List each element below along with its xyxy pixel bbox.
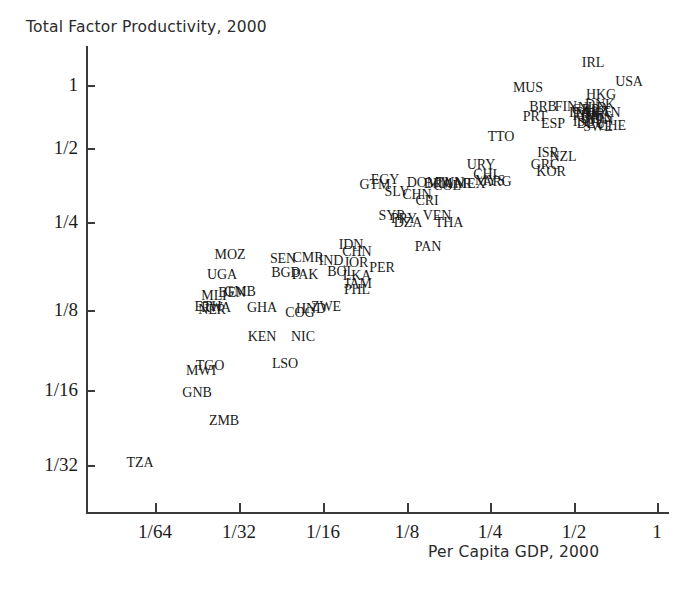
x-axis-title: Per Capita GDP, 2000 [428,543,599,561]
data-point-label: GNB [182,385,211,401]
x-tick-label: 1 [652,521,662,543]
y-tick-label: 1/4 [10,211,78,233]
x-axis-line [86,512,669,514]
data-point-label: TGO [196,358,224,374]
data-point-label: ISL [573,114,594,130]
data-point-label: BRA [424,176,453,192]
data-point-label: PHL [344,282,370,298]
x-tick-label: 1/2 [562,521,586,543]
data-point-label: ZWE [311,299,341,315]
data-point-label: NZL [550,149,577,165]
y-tick-mark [86,390,95,392]
data-point-label: THA [435,215,463,231]
data-point-label: PER [369,260,394,276]
data-point-label: MOZ [215,247,246,263]
y-tick-label: 1/8 [10,299,78,321]
data-point-label: PAK [292,267,318,283]
data-point-label: USA [615,74,643,90]
y-tick-mark [86,148,95,150]
x-tick-mark [490,503,492,513]
data-point-label: GMB [224,284,256,300]
y-tick-label: 1/2 [10,137,78,159]
data-point-label: TZA [127,455,154,471]
scatter-plot-area: 11/21/41/81/161/32 1/641/321/161/81/41/2… [0,0,684,590]
data-point-label: JOR [344,255,369,271]
chart-page: Total Factor Productivity, 2000 11/21/41… [0,0,684,590]
data-point-label: ZMB [209,413,239,429]
data-point-label: URY [467,157,496,173]
data-point-label: PRY [391,211,417,227]
x-tick-mark [323,503,325,513]
y-tick-mark [86,310,95,312]
data-point-label: KEN [248,329,276,345]
x-tick-label: 1/4 [478,521,502,543]
x-tick-label: 1/64 [138,521,172,543]
data-point-label: NIC [291,329,315,345]
data-point-label: UGA [207,267,237,283]
y-tick-label: 1 [10,74,78,96]
x-tick-mark [407,503,409,513]
data-point-label: MUS [513,80,543,96]
y-tick-label: 1/16 [10,379,78,401]
data-point-label: IND [319,253,344,269]
x-tick-mark [574,503,576,513]
data-point-label: PAN [415,239,441,255]
data-point-label: LSO [272,356,298,372]
data-point-label: KOR [536,164,565,180]
y-tick-mark [86,85,95,87]
x-tick-mark [155,503,157,513]
x-tick-label: 1/32 [222,521,256,543]
x-tick-label: 1/16 [306,521,340,543]
data-point-label: GHA [247,300,277,316]
y-tick-label: 1/32 [10,454,78,476]
x-tick-mark [657,503,659,513]
data-point-label: ESP [541,116,565,132]
y-tick-mark [86,465,95,467]
x-tick-mark [239,503,241,513]
y-axis-line [86,46,88,513]
y-tick-mark [86,222,95,224]
data-point-label: GTM [360,177,391,193]
x-tick-label: 1/8 [395,521,419,543]
data-point-label: IRL [582,55,604,71]
data-point-label: TTO [488,129,515,145]
